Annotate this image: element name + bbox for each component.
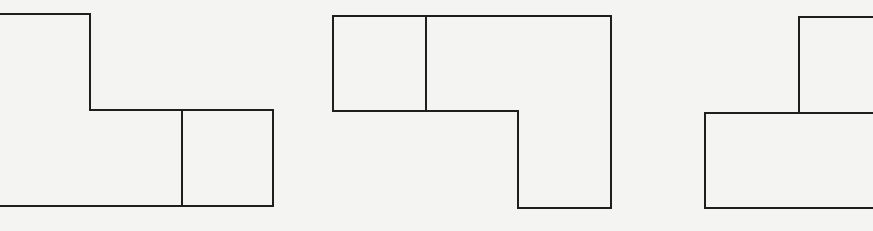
shape-1 — [0, 14, 273, 206]
shape-1-outline — [0, 14, 273, 206]
shape-2-outline — [333, 16, 611, 208]
shape-2 — [333, 16, 611, 208]
figure-canvas — [0, 0, 873, 231]
shape-3 — [705, 17, 873, 208]
